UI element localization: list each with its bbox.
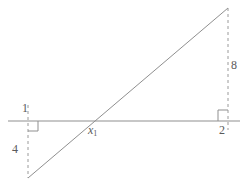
- label-x-intercept: x1: [88, 124, 97, 136]
- label-right-rise-length: 8: [231, 59, 237, 71]
- figure-canvas: [0, 0, 247, 191]
- label-x-intercept-subscript: 1: [93, 129, 97, 138]
- label-left-tick: 1: [22, 102, 28, 114]
- label-right-tick: 2: [219, 124, 225, 136]
- function-line: [28, 8, 228, 178]
- label-left-drop-length: 4: [12, 143, 18, 155]
- geometry-figure: 1 4 x1 2 8: [0, 0, 247, 191]
- left-right-angle-marker: [28, 121, 38, 131]
- right-right-angle-marker: [218, 110, 228, 121]
